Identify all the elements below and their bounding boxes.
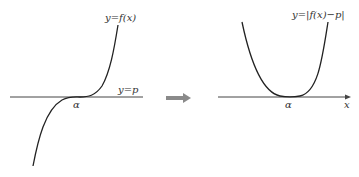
diagram: y=f(x) y=p α y=|f(x)−p| α x (0, 0, 359, 177)
curve-f (33, 25, 118, 166)
transform-arrow-icon (166, 93, 191, 103)
right-graph: y=|f(x)−p| α x (218, 9, 351, 110)
alpha-label-left: α (73, 99, 80, 110)
left-graph: y=f(x) y=p α (10, 12, 143, 166)
curve-abs-label: y=|f(x)−p| (291, 9, 345, 21)
curve-abs (242, 22, 328, 97)
alpha-label-right: α (285, 99, 292, 110)
x-axis-label: x (344, 99, 350, 110)
curve-f-label: y=f(x) (104, 12, 136, 23)
line-p-label: y=p (117, 84, 139, 95)
